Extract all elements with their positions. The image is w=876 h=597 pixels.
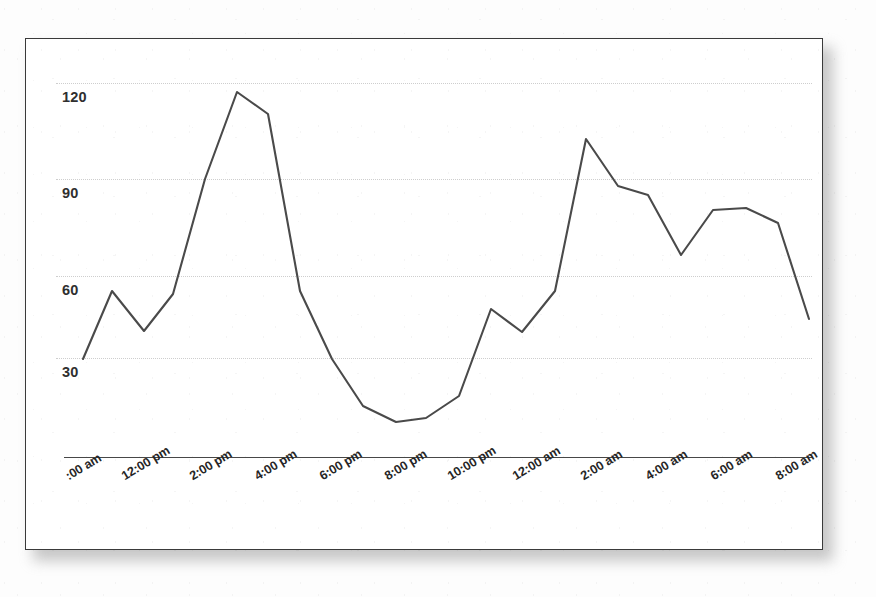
scanned-page: 120 90 60 30 :00 am12:00 pm2:00 pm4:00 p… — [0, 0, 876, 597]
chart-panel: 120 90 60 30 :00 am12:00 pm2:00 pm4:00 p… — [25, 38, 823, 550]
x-axis-line — [64, 457, 812, 458]
plot-area: 120 90 60 30 :00 am12:00 pm2:00 pm4:00 p… — [26, 39, 824, 551]
series-polyline — [83, 92, 809, 422]
line-series — [26, 39, 824, 551]
